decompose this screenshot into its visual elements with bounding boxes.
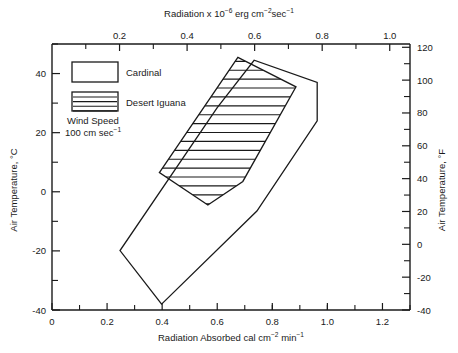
left-tick-label: -40 bbox=[32, 305, 46, 316]
left-tick-label: 20 bbox=[35, 127, 46, 138]
top-tick-label: 1.0 bbox=[383, 30, 396, 41]
left-tick-label: -20 bbox=[32, 245, 46, 256]
radiation-temperature-chart: Radiation x 10−6 erg cm−2sec−1 Radiation… bbox=[0, 0, 458, 353]
right-tick-label: 40 bbox=[417, 173, 428, 184]
left-tick-label: 0 bbox=[41, 186, 46, 197]
top-tick-label: 0.6 bbox=[248, 30, 261, 41]
right-tick-label: 60 bbox=[417, 140, 428, 151]
right-tick-label: 80 bbox=[417, 107, 428, 118]
bottom-tick-label: 0.4 bbox=[156, 316, 169, 327]
right-tick-label: 20 bbox=[417, 206, 428, 217]
bottom-tick-label: 0.6 bbox=[211, 316, 224, 327]
figure-container: Radiation x 10−6 erg cm−2sec−1 Radiation… bbox=[0, 0, 458, 353]
left-axis-title: Air Temperature, °C bbox=[8, 148, 19, 231]
bottom-tick-label: 1.2 bbox=[376, 316, 389, 327]
left-tick-label: 40 bbox=[35, 68, 46, 79]
bottom-tick-label: 0 bbox=[49, 316, 54, 327]
top-tick-label: 0.4 bbox=[180, 30, 193, 41]
wind-speed-line2: 100 cm sec−1 bbox=[65, 126, 121, 138]
right-tick-label: -40 bbox=[417, 305, 431, 316]
right-tick-label: -20 bbox=[417, 272, 431, 283]
right-tick-label: 120 bbox=[417, 42, 433, 53]
bottom-tick-label: 1.0 bbox=[321, 316, 334, 327]
right-tick-label: 100 bbox=[417, 75, 433, 86]
legend-swatch-cardinal bbox=[72, 62, 118, 82]
top-tick-label: 0.8 bbox=[316, 30, 329, 41]
bottom-tick-label: 0.8 bbox=[266, 316, 279, 327]
top-tick-label: 0.2 bbox=[113, 30, 126, 41]
right-tick-label: 0 bbox=[417, 239, 422, 250]
bottom-tick-label: 0.2 bbox=[100, 316, 113, 327]
legend-label-desert-iguana: Desert Iguana bbox=[126, 97, 186, 108]
wind-speed-line1: Wind Speed bbox=[67, 115, 119, 126]
bottom-axis-title: Radiation Absorbed cal cm−2 min−1 bbox=[158, 331, 304, 343]
right-axis-title: Air Temperature, °F bbox=[436, 149, 447, 231]
legend-label-cardinal: Cardinal bbox=[126, 67, 161, 78]
wind-speed-annotation: Wind Speed 100 cm sec−1 bbox=[65, 115, 121, 138]
